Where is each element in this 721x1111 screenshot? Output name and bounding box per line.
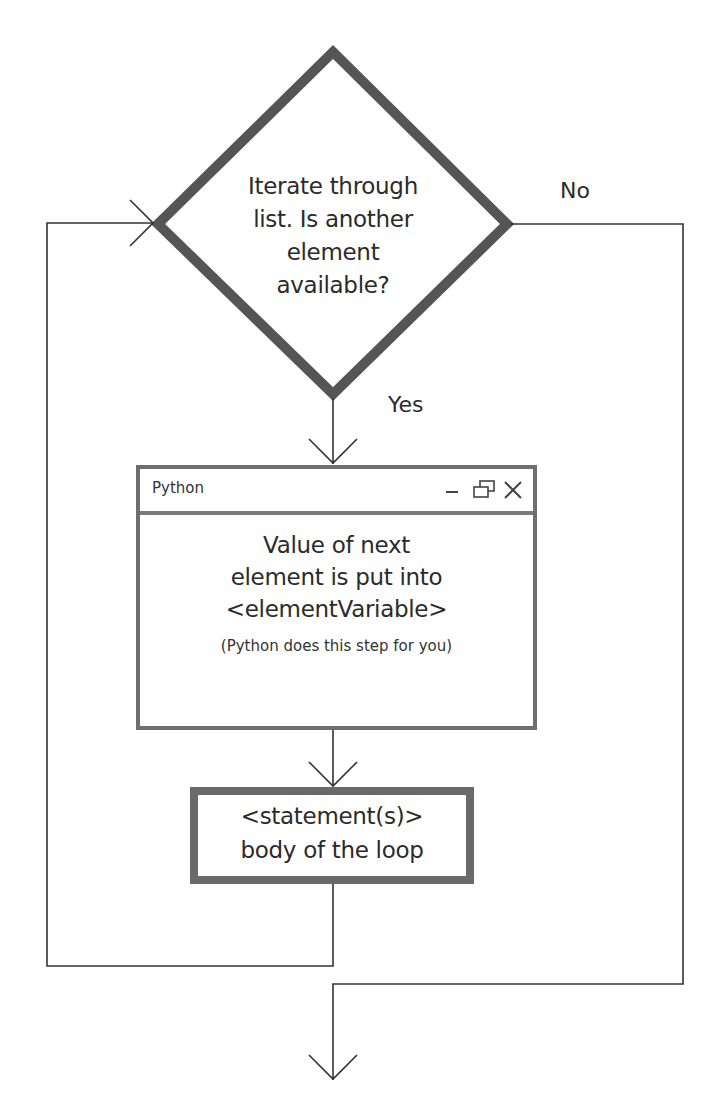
decision-line-4: available? [205, 269, 461, 302]
python-window: Python Value of next element is put into [136, 465, 537, 730]
window-note: (Python does this step for you) [140, 637, 533, 655]
no-branch-label: No [560, 178, 590, 203]
decision-line-1: Iterate through [205, 170, 461, 203]
window-body-text: Value of next element is put into <eleme… [140, 529, 533, 625]
statement-box: <statement(s)> body of the loop [190, 787, 474, 884]
yes-branch-label: Yes [388, 392, 424, 417]
statement-line-2: body of the loop [198, 833, 466, 867]
close-icon[interactable] [501, 478, 525, 502]
decision-label: Iterate through list. Is another element… [205, 170, 461, 302]
minimize-icon[interactable] [441, 478, 465, 502]
window-titlebar: Python [140, 469, 533, 515]
window-controls [441, 475, 525, 505]
window-title: Python [152, 479, 204, 497]
statement-line-1: <statement(s)> [198, 799, 466, 833]
window-body-line-3: <elementVariable> [140, 593, 533, 625]
decision-line-3: element [205, 236, 461, 269]
restore-icon[interactable] [471, 478, 495, 502]
decision-line-2: list. Is another [205, 203, 461, 236]
window-body-line-2: element is put into [140, 561, 533, 593]
window-body-line-1: Value of next [140, 529, 533, 561]
